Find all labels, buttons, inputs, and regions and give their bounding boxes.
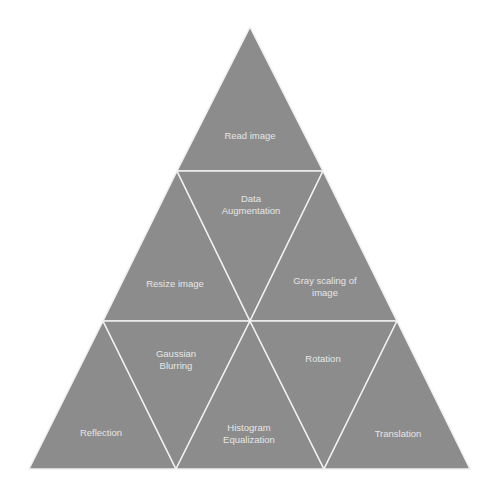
label-line: Histogram: [223, 422, 275, 434]
label-data-augmentation: Data Augmentation: [222, 193, 281, 217]
label-line: Augmentation: [222, 205, 281, 217]
label-line: image: [293, 287, 356, 299]
label-line: Blurring: [156, 360, 196, 372]
label-translation: Translation: [375, 428, 422, 440]
pyramid-diagram: [0, 0, 499, 488]
label-line: Data: [222, 193, 281, 205]
label-read-image: Read image: [224, 130, 275, 142]
tile-read-image: [177, 27, 323, 171]
label-resize-image: Resize image: [146, 278, 204, 290]
label-gaussian-blurring: Gaussian Blurring: [156, 348, 196, 372]
label-line: Equalization: [223, 434, 275, 446]
label-line: Gray scaling of: [293, 275, 356, 287]
label-gray-scaling: Gray scaling of image: [293, 275, 356, 299]
label-reflection: Reflection: [80, 427, 122, 439]
label-histogram-equalization: Histogram Equalization: [223, 422, 275, 446]
label-rotation: Rotation: [305, 353, 340, 365]
label-line: Gaussian: [156, 348, 196, 360]
